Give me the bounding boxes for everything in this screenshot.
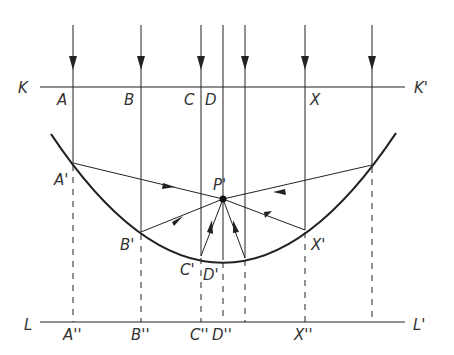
diagram-canvas: K K' L L' A B C D X A' B' C' D' X' P' A'… (0, 0, 454, 355)
label-p-prime: P' (213, 176, 226, 194)
label-a-double-prime: A'' (62, 326, 82, 344)
label-k: K (18, 79, 29, 97)
label-c-double-prime: C'' (190, 326, 209, 344)
focus-point (220, 196, 227, 203)
label-x: X (309, 91, 321, 109)
label-l-prime: L' (413, 316, 425, 334)
label-l: L (24, 316, 32, 334)
label-x-double-prime: X'' (293, 326, 313, 344)
label-c: C (184, 91, 195, 109)
label-b-prime: B' (120, 236, 134, 254)
parabolic-mirror-diagram: K K' L L' A B C D X A' B' C' D' X' P' A'… (0, 0, 454, 355)
label-a-prime: A' (53, 171, 68, 189)
label-d: D (205, 91, 217, 109)
label-d-double-prime: D'' (212, 326, 232, 344)
incident-rays (73, 25, 372, 260)
label-c-prime: C' (180, 261, 195, 279)
label-k-prime: K' (414, 79, 428, 97)
label-d-prime: D' (203, 266, 219, 284)
label-x-prime: X' (310, 236, 325, 254)
label-a: A (56, 91, 67, 109)
label-b-double-prime: B'' (131, 326, 150, 344)
label-b: B (124, 91, 134, 109)
